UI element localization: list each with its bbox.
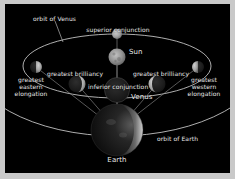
orbit-of-earth-label: orbit of Earth xyxy=(157,135,198,142)
orbit-of-venus-label: orbit of Venus xyxy=(33,15,76,22)
superior-conjunction-label: superior conjunction xyxy=(78,26,158,33)
diagram-frame: orbit of Venus superior conjunction Sun … xyxy=(0,0,235,179)
gee-line1: greatest xyxy=(9,76,53,83)
orbit-of-venus-leader xyxy=(55,21,63,42)
inferior-conjunction-label: inferior conjunction xyxy=(88,83,148,90)
earth-label: Earth xyxy=(87,157,147,164)
venus-greatest-brilliancy-west xyxy=(149,76,166,93)
gee-line3: elongation xyxy=(9,90,53,97)
gwe-line2: western xyxy=(181,83,227,90)
venus-greatest-eastern-elongation xyxy=(30,61,42,73)
sun-label: Sun xyxy=(129,49,143,56)
venus-greatest-western-elongation xyxy=(192,61,204,73)
greatest-brilliancy-east-label: greatest brilliancy xyxy=(47,70,103,77)
gwe-line1: greatest xyxy=(181,76,227,83)
gwe-line3: elongation xyxy=(181,90,227,97)
venus-inferior-conjunction xyxy=(105,78,130,103)
venus-greatest-brilliancy-east xyxy=(69,76,86,93)
gee-line2: eastern xyxy=(9,83,53,90)
diagram-canvas: orbit of Venus superior conjunction Sun … xyxy=(5,4,230,173)
sun-body xyxy=(109,49,126,66)
venus-label: Venus xyxy=(131,94,153,101)
greatest-eastern-elongation-label: greatest eastern elongation xyxy=(9,76,53,97)
greatest-western-elongation-label: greatest western elongation xyxy=(181,76,227,97)
earth-body xyxy=(91,104,143,156)
